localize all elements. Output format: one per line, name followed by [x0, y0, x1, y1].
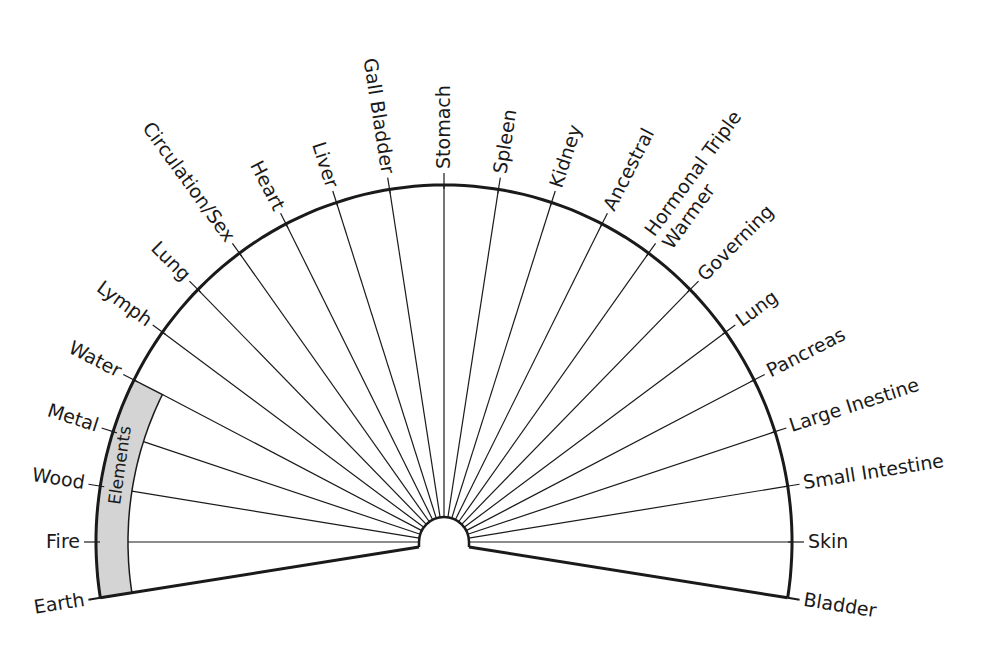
label-circulation-sex: Circulation/Sex	[138, 117, 240, 245]
spoke-line	[143, 442, 420, 535]
label-fire: Fire	[46, 530, 80, 552]
label-water: Water	[65, 336, 125, 381]
earth-base-line	[100, 547, 419, 598]
spoke-line	[448, 189, 499, 517]
label-gall-bladder: Gall Bladder	[359, 57, 399, 176]
hub-semicircle	[419, 517, 469, 547]
spoke-line	[462, 290, 690, 525]
label-skin: Skin	[808, 530, 848, 552]
label-large-inestine: Large Inestine	[786, 373, 921, 436]
label-lung: Lung	[731, 285, 781, 330]
label-bladder: Bladder	[802, 588, 878, 621]
spoke-line	[286, 224, 433, 520]
label-governing: Governing	[693, 200, 778, 285]
spoke-line	[464, 332, 725, 527]
spoke-line	[468, 432, 775, 535]
label-metal: Metal	[45, 399, 102, 436]
spoke-line	[239, 253, 429, 522]
label-ancestral: Ancestral	[598, 124, 658, 214]
pendulum-chart: FireWoodMetalWaterLymphLungCirculation/S…	[0, 0, 982, 647]
spoke-line	[390, 189, 441, 517]
spoke-line	[132, 491, 419, 538]
spoke-line	[455, 224, 602, 520]
label-pancreas: Pancreas	[763, 323, 849, 381]
label-stomach: Stomach	[432, 85, 454, 169]
tick-mark	[788, 598, 800, 600]
label-liver: Liver	[308, 139, 343, 190]
label-wood: Wood	[31, 463, 87, 493]
tick-mark	[88, 598, 100, 600]
spoke-line	[336, 202, 436, 518]
spoke-line	[459, 253, 649, 522]
spoke-labels: FireWoodMetalWaterLymphLungCirculation/S…	[31, 57, 946, 622]
label-earth: Earth	[32, 588, 86, 618]
label-small-intestine: Small Intestine	[802, 449, 946, 493]
spokes	[84, 173, 804, 542]
bladder-base-line	[469, 547, 788, 598]
spoke-line	[466, 380, 754, 531]
spoke-line	[162, 332, 423, 527]
spoke-line	[452, 202, 552, 518]
label-kidney: Kidney	[545, 122, 586, 190]
label-heart: Heart	[246, 157, 290, 214]
spoke-line	[162, 394, 421, 530]
label-spleen: Spleen	[489, 108, 521, 175]
label-lymph: Lymph	[93, 276, 157, 331]
spoke-line	[198, 290, 426, 525]
spoke-line	[469, 486, 788, 538]
label-lung: Lung	[147, 237, 195, 285]
